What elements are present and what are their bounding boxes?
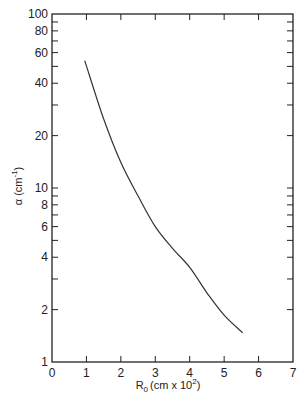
x-tick-label: 6 [255,366,262,380]
y-tick-label: 40 [35,76,49,90]
x-tick-label: 0 [49,366,56,380]
x-tick-label: 2 [118,366,125,380]
x-tick-labels: 01234567 [49,366,297,380]
y-tick-labels: 124681020406080100 [28,7,48,369]
axes-box [52,14,293,362]
y-axis-label: α (cm-1) [10,167,24,206]
y-tick-label: 1 [41,355,48,369]
y-tick-label: 4 [41,250,48,264]
plot-frame [52,14,293,362]
y-tick-label: 20 [35,129,49,143]
axis-ticks [52,14,293,362]
y-tick-label: 60 [35,46,49,60]
y-tick-label: 80 [35,24,49,38]
series-line [85,61,243,333]
x-tick-label: 3 [152,366,159,380]
log-line-chart: 01234567 124681020406080100 R0(cm x 102)… [0,0,307,402]
x-tick-label: 5 [221,366,228,380]
y-tick-label: 10 [35,181,49,195]
x-tick-label: 1 [83,366,90,380]
chart-container: 01234567 124681020406080100 R0(cm x 102)… [0,0,307,402]
y-tick-label: 8 [41,198,48,212]
y-tick-label: 100 [28,7,48,21]
y-tick-label: 6 [41,220,48,234]
data-curve [85,61,243,333]
x-axis-label: R0(cm x 102) [136,377,201,394]
x-tick-label: 7 [290,366,297,380]
y-tick-label: 2 [41,303,48,317]
